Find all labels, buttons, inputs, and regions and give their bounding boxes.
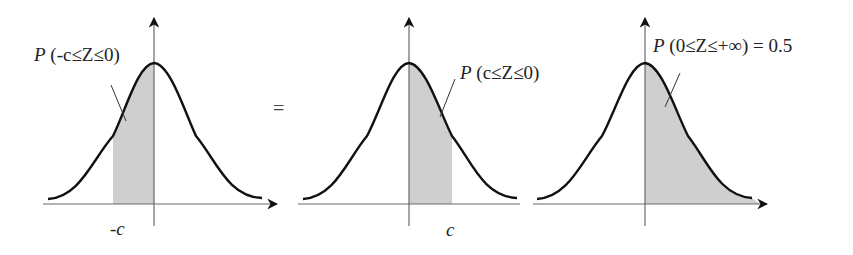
normal-distribution-figure: P (-c≤Z≤0) -c = P (c≤Z≤0) c P (0≤Z≤+∞) =… [0, 0, 853, 255]
label-pointer [440, 79, 455, 117]
tick-label-c: c [446, 219, 455, 240]
bell-curve [48, 63, 262, 199]
probability-label: P (c≤Z≤0) [459, 62, 539, 84]
tick-label-neg-c: -c [110, 218, 125, 239]
equals-sign: = [273, 97, 284, 119]
panel-left: P (-c≤Z≤0) -c [33, 18, 277, 239]
panel-right: P (0≤Z≤+∞) = 0.5 [533, 18, 792, 226]
label-pointer [111, 85, 126, 121]
probability-label: P (0≤Z≤+∞) = 0.5 [652, 35, 792, 57]
probability-label: P (-c≤Z≤0) [33, 44, 120, 66]
shaded-area-0-to-c [409, 63, 452, 204]
shaded-area-neg-c-to-0 [113, 63, 154, 204]
shaded-area-0-to-infinity [645, 63, 760, 204]
panel-middle: P (c≤Z≤0) c [298, 18, 539, 240]
